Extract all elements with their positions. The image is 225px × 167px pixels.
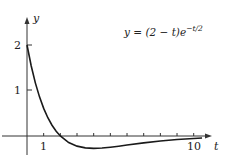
y-tick-label-2: 2 <box>14 40 21 51</box>
x-axis-arrow-icon <box>205 134 212 139</box>
y-axis-arrow-icon <box>25 17 30 24</box>
y-tick-label-1: 1 <box>14 85 21 96</box>
formula-annotation: y = (2 − t)e−t/2 <box>124 24 203 38</box>
x-tick-label-10: 10 <box>187 141 201 152</box>
x-tick-label-1: 1 <box>40 141 47 152</box>
x-axis-label: t <box>214 141 218 152</box>
formula-base: y = (2 − t)e <box>124 26 186 38</box>
curve-line <box>27 45 202 148</box>
formula-exponent: −t/2 <box>186 24 203 33</box>
y-axis-label: y <box>33 13 39 24</box>
